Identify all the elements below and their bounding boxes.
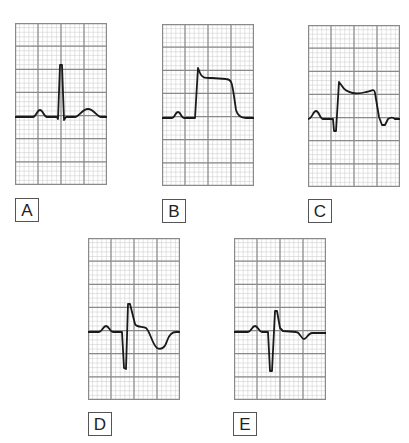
panel-label-a: A bbox=[15, 198, 39, 222]
panel-label-c: C bbox=[308, 199, 332, 223]
ecg-grid bbox=[162, 24, 254, 186]
ecg-panel-c bbox=[308, 25, 400, 187]
ecg-grid bbox=[88, 238, 180, 400]
panel-label-text: B bbox=[168, 203, 179, 220]
ecg-grid bbox=[308, 25, 400, 187]
ecg-panel-a bbox=[15, 23, 107, 185]
ecg-grid bbox=[234, 238, 326, 400]
ecg-grid bbox=[15, 23, 107, 185]
ecg-panel-b bbox=[162, 24, 254, 186]
panel-label-d: D bbox=[88, 412, 112, 436]
panel-label-e: E bbox=[233, 412, 257, 436]
panel-label-text: E bbox=[239, 416, 250, 433]
ecg-panel-e bbox=[234, 238, 326, 400]
panel-label-text: C bbox=[314, 203, 326, 220]
ecg-panel-d bbox=[88, 238, 180, 400]
panel-label-text: A bbox=[21, 202, 32, 219]
panel-label-text: D bbox=[94, 416, 106, 433]
panel-label-b: B bbox=[162, 199, 186, 223]
